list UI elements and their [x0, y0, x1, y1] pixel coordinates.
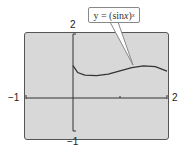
curve-sin-x-pow-x: [73, 66, 167, 76]
function-label-exponent: x: [132, 12, 135, 18]
callout-pointer: [110, 22, 133, 65]
y-max-label: 2: [70, 20, 76, 30]
x-max-label: 2: [172, 93, 178, 103]
x-min-label: −1: [8, 93, 19, 103]
y-min-label: −1: [67, 137, 78, 147]
function-label-lhs: y = (sin: [93, 10, 124, 21]
function-label-callout: y = (sin x)x: [88, 7, 140, 23]
